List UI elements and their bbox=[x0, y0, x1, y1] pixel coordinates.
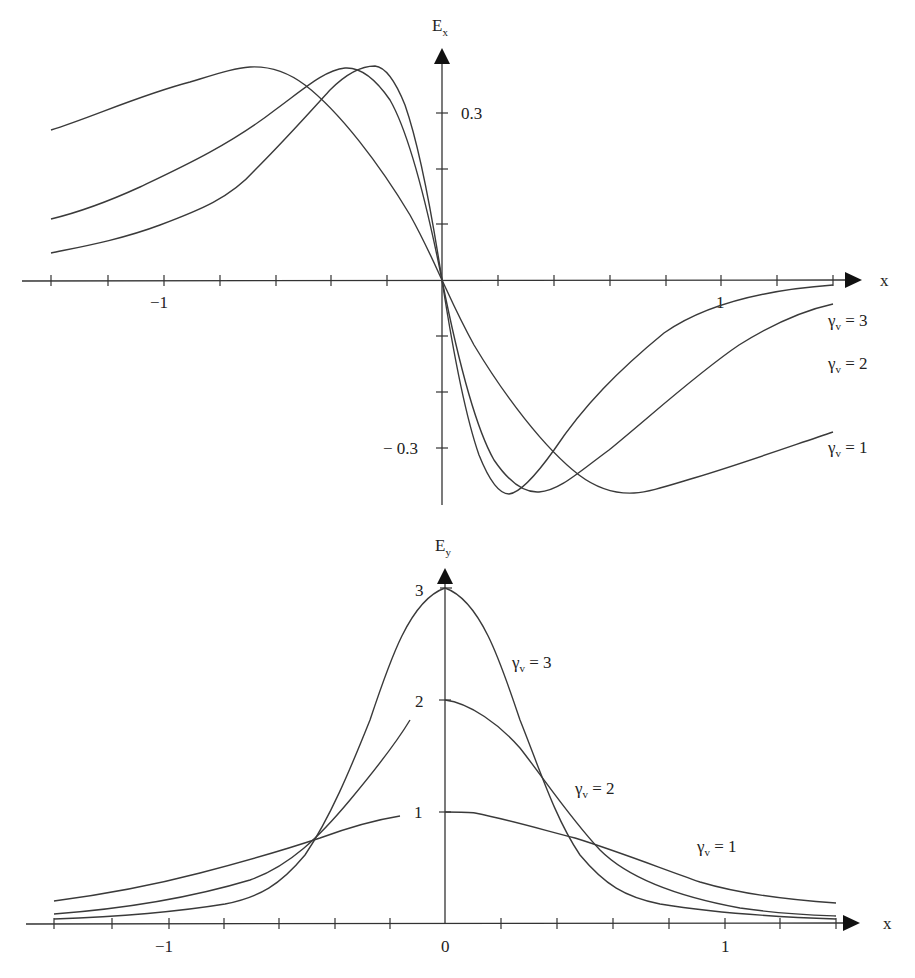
bottom-x-tick-label-0: 0 bbox=[441, 937, 450, 956]
bottom-curve-gamma1-right bbox=[445, 812, 836, 903]
bottom-y-tick-label-1: 1 bbox=[414, 803, 423, 822]
bottom-curve-gamma2-right bbox=[445, 700, 836, 916]
bottom-y-axis-arrow-icon bbox=[437, 568, 453, 584]
bottom-y-tick-label-3: 3 bbox=[415, 581, 424, 600]
top-x-tick-label-neg1: −1 bbox=[150, 293, 168, 312]
top-legend-gamma1: γv = 1 bbox=[827, 438, 868, 459]
top-legend-gamma3: γv = 3 bbox=[827, 311, 868, 332]
top-x-axis-arrow-icon bbox=[845, 272, 862, 288]
bottom-legend-gamma3: γv = 3 bbox=[511, 653, 552, 674]
top-legend-gamma2: γv = 2 bbox=[827, 354, 868, 375]
bottom-y-tick-label-2: 2 bbox=[415, 692, 424, 711]
bottom-x-axis-arrow-icon bbox=[843, 915, 860, 931]
bottom-curve-gamma2-left bbox=[54, 720, 410, 914]
bottom-panel: Ey x −1 0 1 3 2 1 γv = 3 γv = 2 γv = 1 bbox=[26, 536, 892, 956]
bottom-x-tick-label-1: 1 bbox=[721, 937, 730, 956]
bottom-curve-gamma1-left bbox=[54, 816, 400, 901]
top-y-tick-label-neg0.3: − 0.3 bbox=[383, 439, 418, 458]
top-x-tick-label-1: 1 bbox=[716, 293, 725, 312]
bottom-legend-gamma2: γv = 2 bbox=[574, 779, 615, 800]
top-panel: Ex x −1 1 0.3 − 0.3 γv = 3 γv = 2 γv = 1 bbox=[22, 16, 889, 505]
bottom-x-axis-label: x bbox=[883, 914, 892, 933]
top-y-tick-label-0.3: 0.3 bbox=[461, 104, 482, 123]
bottom-y-axis-label: Ey bbox=[435, 536, 451, 558]
top-y-axis-label: Ex bbox=[432, 16, 448, 38]
top-y-axis-arrow-icon bbox=[434, 48, 450, 64]
bottom-legend-gamma1: γv = 1 bbox=[696, 837, 737, 858]
top-x-axis-label: x bbox=[880, 271, 889, 290]
top-x-axis bbox=[22, 280, 847, 281]
figure: Ex x −1 1 0.3 − 0.3 γv = 3 γv = 2 γv = 1 bbox=[0, 0, 915, 978]
bottom-x-axis bbox=[26, 923, 845, 924]
bottom-x-tick-label-neg1: −1 bbox=[155, 937, 173, 956]
